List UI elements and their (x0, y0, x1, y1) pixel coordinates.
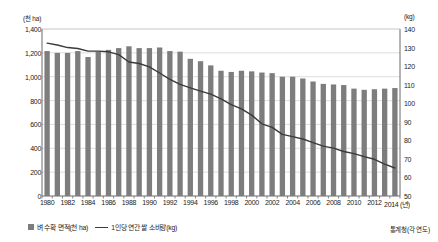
chart-legend: 벼 수확 면적(천 ha) 1인당 연간 쌀 소비량(kg) (28, 222, 177, 232)
rice-area-consumption-chart: (천 ha) (kg) 02004006008001,0001,2001,400… (0, 0, 438, 242)
x-axis-tick: 1984 (81, 199, 95, 206)
x-axis-tick-labels: 1980198219841986198819901992199419961998… (0, 0, 438, 242)
x-axis-tick: 1988 (122, 199, 136, 206)
x-axis-tick: 2000 (245, 199, 259, 206)
x-axis-tick: 1990 (142, 199, 156, 206)
legend-label-harvest-area: 벼 수확 면적(천 ha) (37, 222, 88, 232)
x-axis-tick: 2004 (285, 199, 299, 206)
x-axis-tick: 1980 (40, 199, 54, 206)
line-swatch-icon (95, 227, 108, 228)
legend-entry-consumption: 1인당 연간 쌀 소비량(kg) (95, 222, 177, 232)
x-axis-tick: 2010 (347, 199, 361, 206)
x-axis-tick: 2012 (367, 199, 381, 206)
x-axis-tick: 2008 (326, 199, 340, 206)
x-axis-tick: 2006 (306, 199, 320, 206)
x-axis-tick: 2014 (년) (384, 199, 410, 209)
legend-label-consumption: 1인당 연간 쌀 소비량(kg) (111, 222, 177, 232)
x-axis-tick: 1998 (224, 199, 238, 206)
x-axis-tick: 2002 (265, 199, 279, 206)
source-note: 통계청(각 연도) (390, 224, 430, 234)
bar-swatch-icon (28, 224, 34, 230)
x-axis-tick: 1986 (101, 199, 115, 206)
x-axis-tick: 1982 (60, 199, 74, 206)
legend-entry-harvest-area: 벼 수확 면적(천 ha) (28, 222, 88, 232)
x-axis-tick: 1992 (163, 199, 177, 206)
x-axis-tick: 1996 (204, 199, 218, 206)
x-axis-tick: 1994 (183, 199, 197, 206)
